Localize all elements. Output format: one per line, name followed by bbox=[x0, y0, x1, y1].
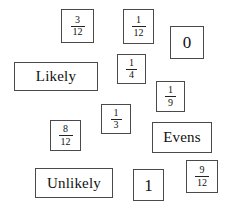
fraction-numerator: 9 bbox=[198, 165, 207, 176]
fraction-denominator: 12 bbox=[59, 136, 73, 147]
fraction: 14 bbox=[126, 58, 137, 81]
card-fraction-8-12[interactable]: 812 bbox=[50, 120, 81, 151]
fraction-denominator: 12 bbox=[195, 177, 209, 188]
card-label: Evens bbox=[163, 130, 201, 145]
card-canvas: 3121120Likely141913812Evens912Unlikely1 bbox=[0, 0, 230, 219]
card-number-0[interactable]: 0 bbox=[170, 26, 204, 59]
fraction-numerator: 1 bbox=[127, 58, 136, 69]
fraction: 13 bbox=[111, 108, 122, 131]
fraction-denominator: 3 bbox=[112, 120, 121, 131]
card-value: 0 bbox=[183, 34, 192, 51]
fraction: 312 bbox=[71, 15, 85, 38]
card-number-1[interactable]: 1 bbox=[133, 169, 164, 201]
fraction-numerator: 1 bbox=[112, 108, 121, 119]
card-word-likely[interactable]: Likely bbox=[14, 62, 98, 91]
card-fraction-3-12[interactable]: 312 bbox=[61, 9, 94, 43]
fraction-denominator: 12 bbox=[132, 27, 146, 38]
card-fraction-1-4[interactable]: 14 bbox=[117, 54, 146, 84]
fraction: 112 bbox=[132, 15, 146, 38]
fraction-denominator: 9 bbox=[166, 97, 175, 108]
fraction-denominator: 4 bbox=[127, 70, 136, 81]
fraction-numerator: 3 bbox=[73, 15, 82, 26]
fraction-numerator: 1 bbox=[166, 85, 175, 96]
card-fraction-1-3[interactable]: 13 bbox=[101, 104, 131, 134]
fraction: 19 bbox=[165, 85, 176, 108]
card-value: 1 bbox=[144, 177, 153, 194]
fraction-numerator: 8 bbox=[61, 124, 70, 135]
fraction: 912 bbox=[195, 165, 209, 188]
card-fraction-9-12[interactable]: 912 bbox=[186, 160, 218, 193]
card-word-unlikely[interactable]: Unlikely bbox=[35, 168, 113, 198]
card-label: Likely bbox=[36, 69, 76, 84]
fraction: 812 bbox=[59, 124, 73, 147]
card-fraction-1-9[interactable]: 19 bbox=[156, 81, 185, 112]
fraction-numerator: 1 bbox=[134, 15, 143, 26]
card-label: Unlikely bbox=[47, 176, 101, 191]
card-word-evens[interactable]: Evens bbox=[152, 122, 212, 153]
fraction-denominator: 12 bbox=[71, 27, 85, 38]
card-fraction-1-12[interactable]: 112 bbox=[123, 9, 154, 44]
